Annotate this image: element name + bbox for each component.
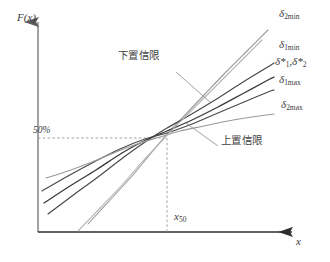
- delta-star-2-subscript: 2: [303, 60, 307, 69]
- delta-1min-label: δ1min: [279, 39, 299, 51]
- reference-line-group: [38, 138, 167, 232]
- delta-2min-label: δ2min: [279, 8, 299, 20]
- lower-confidence-limit-label: 下置信限: [118, 50, 159, 61]
- delta-2min-curve: [88, 30, 268, 224]
- delta-1max-subscript: 1max: [284, 78, 301, 87]
- lower-confidence-limit-leader-line: [176, 72, 210, 102]
- y-axis-label: F(x): [17, 12, 36, 23]
- delta-2max-label: δ2max: [281, 99, 303, 111]
- fifty-percent-label: 50%: [33, 126, 50, 136]
- delta-2min-subscript: 2min: [284, 12, 299, 21]
- axis-group: [38, 22, 292, 232]
- delta-2max-subscript: 2max: [286, 103, 303, 112]
- annotation-leader-group: [176, 72, 218, 146]
- upper-confidence-limit-label: 上置信限: [221, 135, 262, 146]
- delta-1max-label: δ1max: [279, 74, 301, 86]
- delta-1min-subscript: 1min: [284, 43, 299, 52]
- delta-star-1-base: δ*: [275, 55, 286, 67]
- x-axis-label: x: [296, 236, 301, 247]
- confidence-limit-chart: F(x) x 50% x50 下置信限 上置信限 δ2min δ1min δ*1…: [0, 0, 330, 262]
- x50-subscript: 50: [179, 215, 186, 224]
- delta-star-2-base: δ*: [292, 55, 303, 67]
- delta-2max-curve: [46, 114, 274, 178]
- delta-star-label: δ*1,δ*2: [275, 56, 306, 68]
- x50-label: x50: [174, 211, 186, 223]
